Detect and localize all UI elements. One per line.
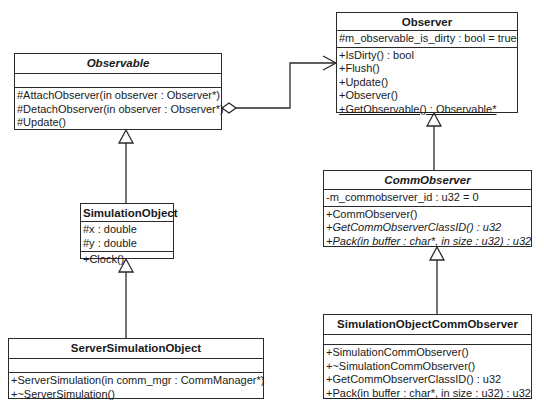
operations-compartment: #AttachObserver(in observer : Observer*)…: [15, 87, 221, 131]
operation: +Pack(in buffer : char*, in size : u32) …: [326, 235, 529, 249]
class-name: SimulationObjectCommObserver: [324, 315, 531, 334]
attribute: #x : double: [83, 223, 171, 237]
aggregation-edge: [222, 56, 336, 113]
generalization-edge: [119, 259, 133, 338]
attributes-compartment: [9, 358, 263, 372]
operation: +SimulationCommObserver(): [326, 346, 529, 360]
operation: +IsDirty() : bool: [339, 49, 515, 63]
attributes-compartment: [324, 334, 531, 344]
generalization-edge: [427, 113, 441, 170]
operation: +GetCommObserverClassID() : u32: [326, 373, 529, 387]
class-name: ServerSimulationObject: [9, 339, 263, 358]
operation: +~SimulationCommObserver(): [326, 360, 529, 374]
attributes-compartment: #x : double #y : double: [81, 221, 173, 251]
operations-compartment: +Clock(): [81, 251, 173, 268]
class-observer[interactable]: Observer #m_observable_is_dirty : bool =…: [336, 12, 518, 113]
attributes-compartment: -m_commobserver_id : u32 = 0: [324, 189, 531, 206]
generalization-edge: [119, 130, 133, 203]
operation: +Flush(): [339, 62, 515, 76]
class-name: CommObserver: [324, 171, 531, 189]
operation: +CommObserver(): [326, 208, 529, 222]
class-simulation-object[interactable]: SimulationObject #x : double #y : double…: [80, 203, 174, 259]
attribute: #m_observable_is_dirty : bool = true: [339, 32, 515, 46]
attribute: #y : double: [83, 237, 171, 251]
operation: #DetachObserver(in observer : Observer*): [17, 103, 219, 117]
operations-compartment: +ServerSimulation(in comm_mgr : CommMana…: [9, 372, 263, 402]
class-observable[interactable]: Observable #AttachObserver(in observer :…: [14, 53, 222, 130]
operation: +Update(): [339, 76, 515, 90]
class-comm-observer[interactable]: CommObserver -m_commobserver_id : u32 = …: [323, 170, 532, 247]
aggregation-diamond-icon: [222, 103, 236, 113]
attributes-compartment: #m_observable_is_dirty : bool = true: [337, 30, 517, 47]
class-name: Observable: [15, 54, 221, 73]
operation: +Pack(in buffer : char*, in size : u32) …: [326, 387, 529, 401]
operations-compartment: +SimulationCommObserver() +~SimulationCo…: [324, 344, 531, 401]
operations-compartment: +CommObserver() +GetCommObserverClassID(…: [324, 206, 531, 250]
inheritance-triangle-icon: [119, 130, 133, 143]
operation: +Observer(): [339, 89, 515, 103]
attribute: -m_commobserver_id : u32 = 0: [326, 191, 529, 205]
operations-compartment: +IsDirty() : bool +Flush() +Update() +Ob…: [337, 47, 517, 118]
operation: +GetObservable() : Observable*: [339, 103, 515, 117]
class-server-simulation-object[interactable]: ServerSimulationObject +ServerSimulation…: [8, 338, 264, 399]
class-simulation-object-comm-observer[interactable]: SimulationObjectCommObserver +Simulation…: [323, 314, 532, 399]
operation: +GetCommObserverClassID() : u32: [326, 221, 529, 235]
operation: #Update(): [17, 116, 219, 130]
attributes-compartment: [15, 73, 221, 87]
class-name: Observer: [337, 13, 517, 30]
generalization-edge: [430, 247, 444, 314]
operation: +~ServerSimulation(): [11, 388, 261, 402]
operation: +Clock(): [83, 253, 171, 267]
operation: +ServerSimulation(in comm_mgr : CommMana…: [11, 374, 261, 388]
class-name: SimulationObject: [81, 204, 173, 221]
operation: #AttachObserver(in observer : Observer*): [17, 89, 219, 103]
